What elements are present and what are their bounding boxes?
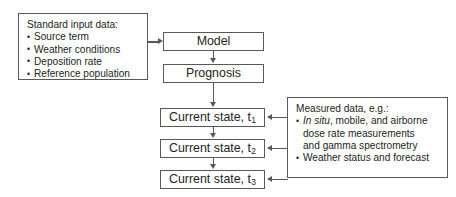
prognosis-box-label: Prognosis (186, 67, 241, 79)
arrowhead-model-to-prognosis (210, 58, 216, 63)
arrowhead-state-2-to-state-3 (210, 164, 216, 169)
in-situ-italic: In situ (303, 115, 330, 126)
current-state-t2-subscript: 2 (251, 147, 256, 155)
measured-item-1-rest: , mobile, and airborne (330, 115, 428, 126)
current-state-t1-subscript: 1 (251, 116, 256, 124)
arrowhead-state-1-to-state-2 (210, 133, 216, 138)
diagram-canvas: Standard input data: Source term Weather… (0, 0, 456, 197)
connector-prognosis-to-state-1 (213, 83, 214, 103)
standard-input-data-panel: Standard input data: Source term Weather… (18, 13, 148, 80)
prognosis-box: Prognosis (163, 64, 264, 83)
current-state-t2-box: Current state, t2 (160, 139, 265, 158)
current-state-t3-subscript: 3 (251, 178, 256, 186)
current-state-t3-box: Current state, t3 (160, 170, 265, 189)
measured-data-heading: Measured data, e.g.: (296, 103, 440, 115)
standard-input-data-heading: Standard input data: (27, 19, 140, 31)
list-item: Weather conditions (27, 44, 140, 56)
measured-data-panel: Measured data, e.g.: In situ, mobile, an… (287, 97, 448, 178)
arrowhead-input-to-model (158, 38, 163, 44)
list-item-continuation: dose rate measurements (296, 128, 440, 140)
arrowhead-prognosis-to-state-1 (210, 102, 216, 107)
connector-measured-to-state-2 (272, 148, 288, 149)
connector-measured-to-state-3 (272, 179, 288, 180)
list-item-continuation: and gamma spectrometry (296, 140, 440, 152)
current-state-t1-label: Current state, t (169, 111, 251, 123)
list-item: Source term (27, 31, 140, 43)
connector-measured-to-state-1 (272, 117, 288, 118)
measured-data-list: In situ, mobile, and airborne dose rate … (296, 115, 440, 164)
current-state-t3-label: Current state, t (169, 173, 251, 185)
current-state-t1-box: Current state, t1 (160, 108, 265, 127)
list-item: Reference population (27, 68, 140, 80)
arrowhead-measured-to-state-1 (267, 114, 272, 120)
list-item: Weather status and forecast (296, 152, 440, 164)
standard-input-data-list: Source term Weather conditions Depositio… (27, 31, 140, 80)
list-item: Deposition rate (27, 56, 140, 68)
model-box: Model (163, 32, 264, 51)
arrowhead-measured-to-state-3 (267, 176, 272, 182)
list-item: In situ, mobile, and airborne (296, 115, 440, 127)
current-state-t2-label: Current state, t (169, 142, 251, 154)
model-box-label: Model (197, 35, 231, 47)
arrowhead-measured-to-state-2 (267, 145, 272, 151)
